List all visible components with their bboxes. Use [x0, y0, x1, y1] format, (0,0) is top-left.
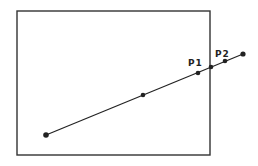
point-intersection	[209, 65, 214, 70]
point-start	[43, 132, 49, 138]
point-p2	[223, 59, 228, 64]
point-p1	[196, 71, 201, 76]
point-mid	[141, 93, 146, 98]
point-end	[240, 51, 245, 56]
label-p2: P2	[215, 49, 230, 59]
clipping-diagram: P1 P2	[0, 0, 258, 166]
label-p1: P1	[188, 58, 203, 68]
